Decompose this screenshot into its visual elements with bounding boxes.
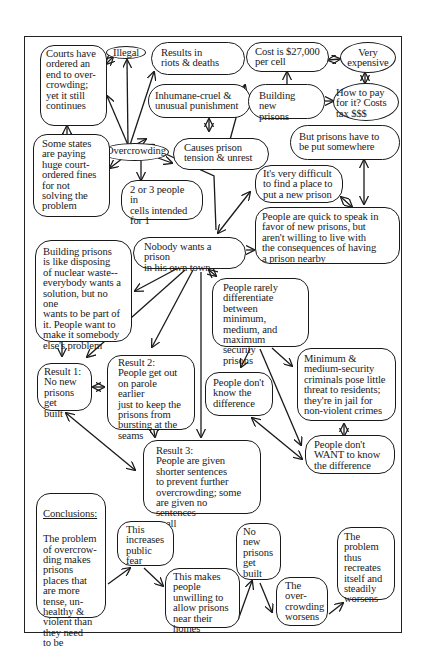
- node-conclusions: Conclusions: The problem of overcrow- di…: [36, 493, 106, 618]
- node-illegal: Illegal: [106, 46, 146, 59]
- node-problem-recreates: The problem thus recreates itself and st…: [337, 527, 395, 600]
- node-tension-unrest: Causes prison tension & unrest: [173, 138, 269, 170]
- node-unwilling-near-homes: This makes people unwilling to allow pri…: [165, 568, 240, 628]
- node-courts-ordered: Courts have ordered an end to over- crow…: [40, 45, 107, 126]
- conclusions-text: The problem of overcrow- ding makes pris…: [43, 533, 97, 648]
- node-rarely-differentiate: People rarely differentiate between mini…: [212, 278, 309, 347]
- conclusions-heading: Conclusions:: [43, 509, 99, 519]
- node-states-fines: Some states are paying huge court- order…: [33, 134, 110, 217]
- node-nuclear-waste: Building prisons is like disposing of nu…: [35, 240, 132, 342]
- node-result-2: Result 2: People get out on parole earli…: [107, 355, 195, 430]
- node-difficult-to-find-place: It's very difficult to find a place to p…: [255, 165, 343, 203]
- node-overcrowding: Overcrowding: [101, 143, 169, 161]
- node-result-3: Result 3: People are given shorter sente…: [143, 440, 261, 514]
- node-building-new-prisons: Building new prisons: [248, 84, 325, 119]
- node-minimum-medium-security: Minimum & medium-security criminals pose…: [297, 348, 396, 421]
- node-cost-per-cell: Cost is $27,000 per cell: [246, 42, 329, 72]
- node-cells-intended: 2 or 3 people in cells intended for 1: [121, 180, 203, 220]
- node-very-expensive: Very expensive: [340, 42, 396, 73]
- node-riots-deaths: Results in riots & deaths: [151, 42, 245, 75]
- node-dont-know-difference: People don't know the difference: [205, 372, 273, 416]
- node-result-1: Result 1: No new prisons get built: [37, 363, 92, 411]
- node-inhumane: Inhumane-cruel & unusual punishment: [148, 84, 251, 118]
- node-overcrowding-worsens: The over- crowding worsens: [276, 577, 328, 626]
- node-nobody-wants-prison: Nobody wants a prison in his own town: [133, 237, 246, 269]
- node-quick-to-speak: People are quick to speak in favor of ne…: [255, 207, 400, 264]
- node-prisons-put-somewhere: But prisons have to be put somewhere: [290, 125, 400, 160]
- node-dont-want-to-know: People don't WANT to know the difference: [305, 435, 395, 474]
- node-how-to-pay: How to pay for it? Costs tax $$$: [333, 83, 399, 121]
- node-no-new-prisons: No new prisons get built: [236, 523, 281, 580]
- node-increases-fear: This increases public fear: [117, 521, 174, 566]
